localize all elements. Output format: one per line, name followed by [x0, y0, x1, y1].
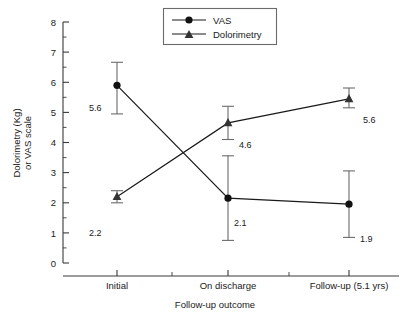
dolorimetry-value-label-initial: 2.2: [89, 228, 102, 238]
y-tick-label-6: 6: [51, 77, 56, 88]
vas-marker-initial: [113, 82, 120, 89]
vas-marker-follow-up: [345, 201, 352, 208]
line-chart-canvas: 8 7 6 5 4 3 2 1 0 Dolorimetry (Kg) or VA…: [0, 0, 407, 315]
y-axis-title-line1: Dolorimetry (Kg): [11, 108, 22, 177]
y-tick-label-3: 3: [51, 167, 56, 178]
circle-marker-icon: [185, 16, 192, 23]
y-axis-title-line2: or VAS scale: [22, 116, 33, 170]
chart-legend: VAS Dolorimetry: [164, 9, 277, 45]
y-axis-title: Dolorimetry (Kg) or VAS scale: [11, 108, 33, 177]
vas-value-label-initial: 5.6: [89, 103, 102, 113]
vas-value-label-follow-up: 1.9: [360, 234, 373, 244]
x-tick-label-follow-up: Follow-up (5.1 yrs): [310, 280, 389, 291]
chart-figure: 8 7 6 5 4 3 2 1 0 Dolorimetry (Kg) or VA…: [0, 0, 407, 315]
x-tick-label-on-discharge: On discharge: [200, 280, 257, 291]
y-tick-label-0: 0: [51, 258, 56, 269]
vas-marker-on-discharge: [224, 195, 231, 202]
y-tick-label-7: 7: [51, 47, 56, 58]
dolorimetry-value-label-follow-up: 5.6: [363, 115, 376, 125]
y-tick-label-4: 4: [51, 137, 56, 148]
dolorimetry-value-label-on-discharge: 4.6: [239, 140, 252, 150]
y-tick-label-8: 8: [51, 17, 56, 28]
y-tick-label-5: 5: [51, 107, 56, 118]
chart-background: [0, 0, 407, 315]
legend-dolorimetry-label: Dolorimetry: [213, 29, 262, 40]
legend-vas-label: VAS: [213, 15, 231, 26]
x-tick-label-initial: Initial: [106, 280, 128, 291]
x-axis-title: Follow-up outcome: [175, 299, 255, 310]
y-tick-label-2: 2: [51, 197, 56, 208]
y-tick-label-1: 1: [51, 228, 56, 239]
vas-value-label-on-discharge: 2.1: [234, 218, 247, 228]
